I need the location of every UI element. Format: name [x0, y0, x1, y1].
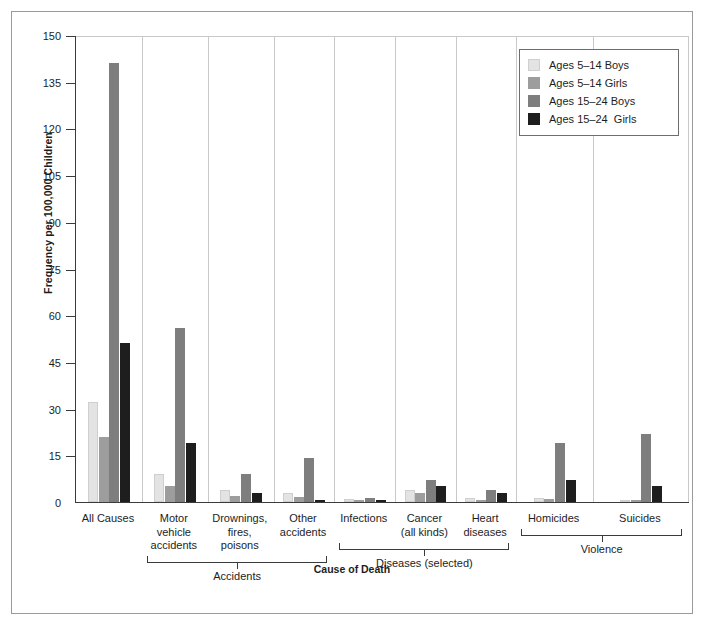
bar — [436, 486, 446, 502]
panel-divider — [274, 36, 275, 502]
y-axis-tick-label: 0 — [27, 498, 61, 509]
bar — [154, 474, 164, 502]
category-label: Suicides — [592, 512, 688, 526]
legend-item: Ages 5–14 Girls — [528, 74, 670, 92]
y-axis-tick-label: 90 — [27, 218, 61, 229]
y-axis-tick-label: 105 — [27, 171, 61, 182]
bar — [641, 434, 651, 503]
bar — [354, 500, 364, 503]
panel-divider — [142, 36, 143, 502]
bar — [120, 343, 130, 502]
bar — [175, 328, 185, 502]
bar — [486, 490, 496, 503]
y-axis-tick-label: 75 — [27, 265, 61, 276]
bar — [241, 474, 251, 502]
bar — [186, 443, 196, 502]
y-axis-tick — [66, 176, 75, 177]
legend-item: Ages 15–24 Girls — [528, 110, 670, 128]
x-axis-title: Cause of Death — [12, 563, 692, 575]
bar — [220, 490, 230, 503]
bar — [304, 458, 314, 502]
bar — [555, 443, 565, 502]
bar — [415, 493, 425, 502]
y-axis-tick — [66, 410, 75, 411]
panel-divider — [208, 36, 209, 502]
y-axis-title: Frequency per 100,000 Children — [42, 103, 54, 323]
legend-label-ages-15-24-boys: Ages 15–24 Boys — [549, 95, 635, 107]
figure-frame: Frequency per 100,000 Children 150135120… — [11, 11, 693, 614]
bar — [165, 486, 175, 502]
bar — [230, 496, 240, 502]
bar — [566, 480, 576, 502]
legend-item: Ages 5–14 Boys — [528, 56, 670, 74]
bar — [344, 499, 354, 502]
bracket-label: Violence — [512, 543, 692, 555]
bar — [620, 500, 630, 503]
bar — [99, 437, 109, 502]
legend-swatch-ages-5-14-girls — [528, 77, 540, 89]
bar — [544, 499, 554, 502]
legend-item: Ages 15–24 Boys — [528, 92, 670, 110]
bar — [252, 493, 262, 502]
y-axis-tick-label: 30 — [27, 405, 61, 416]
y-axis-tick — [66, 316, 75, 317]
y-axis-tick — [66, 83, 75, 84]
bar — [109, 63, 119, 502]
legend-label-ages-15-24-girls: Ages 15–24 Girls — [549, 113, 636, 125]
y-axis-tick — [66, 129, 75, 130]
bar — [294, 497, 304, 502]
bracket — [339, 543, 509, 557]
bar — [405, 490, 415, 503]
panel-divider — [456, 36, 457, 502]
category-label: Homicides — [506, 512, 602, 526]
y-axis-tick-label: 15 — [27, 451, 61, 462]
y-axis-tick-label: 45 — [27, 358, 61, 369]
y-axis-tick — [66, 36, 75, 37]
bar — [376, 500, 386, 503]
y-axis-tick — [66, 223, 75, 224]
bar — [534, 498, 544, 502]
y-axis-tick — [66, 456, 75, 457]
panel-divider — [334, 36, 335, 502]
panel-divider — [516, 36, 517, 502]
legend-swatch-ages-5-14-boys — [528, 59, 540, 71]
bar — [497, 493, 507, 502]
y-axis-tick — [66, 363, 75, 364]
bar — [631, 500, 641, 502]
bar — [426, 480, 436, 502]
legend-label-ages-5-14-boys: Ages 5–14 Boys — [549, 59, 629, 71]
y-axis-tick-label: 60 — [27, 311, 61, 322]
bar — [88, 402, 98, 502]
panel-divider — [395, 36, 396, 502]
legend-swatch-ages-15-24-girls — [528, 113, 540, 125]
y-axis-tick-label: 150 — [27, 31, 61, 42]
bar — [283, 493, 293, 502]
bar — [476, 500, 486, 503]
legend-label-ages-5-14-girls: Ages 5–14 Girls — [549, 77, 627, 89]
bar — [465, 498, 475, 502]
y-axis-tick — [66, 270, 75, 271]
bar — [365, 498, 375, 502]
chart-legend: Ages 5–14 Boys Ages 5–14 Girls Ages 15–2… — [519, 49, 679, 136]
bar — [315, 500, 325, 502]
bracket — [521, 529, 682, 543]
legend-swatch-ages-15-24-boys — [528, 95, 540, 107]
y-axis-tick-label: 135 — [27, 78, 61, 89]
y-axis-tick-label: 120 — [27, 124, 61, 135]
bar — [652, 486, 662, 502]
